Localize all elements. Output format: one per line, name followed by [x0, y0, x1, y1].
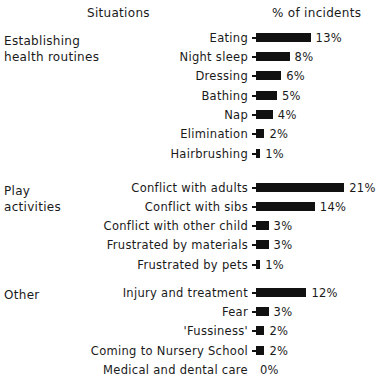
category-label: Frustrated by pets — [137, 257, 248, 273]
value-label: 4% — [278, 107, 297, 123]
category-label: Night sleep — [180, 49, 249, 65]
category-label: Elimination — [180, 126, 248, 142]
percent-header: % of incidents — [272, 6, 361, 20]
bar — [256, 33, 311, 42]
bar — [256, 202, 315, 211]
table-row: Bathing5% — [0, 88, 381, 104]
category-label: Bathing — [201, 88, 248, 104]
bar — [256, 346, 264, 355]
category-label: Conflict with adults — [131, 180, 248, 196]
value-label: 21% — [349, 180, 375, 196]
table-row: Eating13% — [0, 30, 381, 46]
category-label: Dressing — [195, 68, 248, 84]
value-label: 12% — [311, 285, 337, 301]
bar — [256, 52, 290, 61]
value-label: 1% — [265, 257, 284, 273]
table-row: Medical and dental care0% — [0, 362, 381, 378]
bar — [256, 288, 306, 297]
category-label: 'Fussiness' — [184, 323, 248, 339]
bar — [256, 183, 344, 192]
category-label: Nap — [224, 107, 248, 123]
bar — [256, 71, 281, 80]
bar — [256, 307, 269, 316]
bar — [256, 221, 269, 230]
table-row: Elimination2% — [0, 126, 381, 142]
value-label: 2% — [269, 343, 288, 359]
value-label: 5% — [282, 88, 301, 104]
value-label: 0% — [260, 362, 279, 378]
table-row: Nap4% — [0, 107, 381, 123]
situations-header: Situations — [87, 6, 150, 20]
category-label: Fear — [222, 304, 248, 320]
bar — [256, 110, 273, 119]
bar — [256, 240, 269, 249]
table-row: Hairbrushing1% — [0, 146, 381, 162]
value-label: 3% — [274, 304, 293, 320]
category-label: Eating — [210, 30, 248, 46]
bar — [256, 260, 260, 269]
table-row: Coming to Nursery School2% — [0, 343, 381, 359]
value-label: 8% — [295, 49, 314, 65]
category-label: Injury and treatment — [123, 285, 248, 301]
bar — [256, 91, 277, 100]
table-row: Injury and treatment12% — [0, 285, 381, 301]
value-label: 2% — [269, 126, 288, 142]
value-label: 6% — [286, 68, 305, 84]
table-row: Frustrated by materials3% — [0, 237, 381, 253]
value-label: 14% — [320, 199, 346, 215]
table-row: Conflict with other child3% — [0, 218, 381, 234]
category-label: Conflict with other child — [104, 218, 248, 234]
value-label: 13% — [316, 30, 342, 46]
table-row: 'Fussiness'2% — [0, 323, 381, 339]
table-row: Frustrated by pets1% — [0, 257, 381, 273]
table-row: Conflict with sibs14% — [0, 199, 381, 215]
table-row: Conflict with adults21% — [0, 180, 381, 196]
bar — [256, 149, 260, 158]
value-label: 1% — [265, 146, 284, 162]
value-label: 3% — [274, 218, 293, 234]
table-row: Dressing6% — [0, 68, 381, 84]
table-row: Fear3% — [0, 304, 381, 320]
bar — [256, 129, 264, 138]
value-label: 2% — [269, 323, 288, 339]
bar — [256, 326, 264, 335]
category-label: Medical and dental care — [103, 362, 248, 378]
table-row: Night sleep8% — [0, 49, 381, 65]
category-label: Conflict with sibs — [145, 199, 248, 215]
category-label: Hairbrushing — [170, 146, 248, 162]
value-label: 3% — [274, 237, 293, 253]
category-label: Frustrated by materials — [107, 237, 248, 253]
category-label: Coming to Nursery School — [91, 343, 248, 359]
